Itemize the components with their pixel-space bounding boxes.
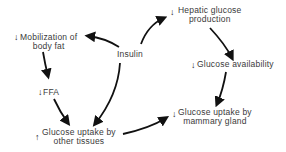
arrow-insulin-to-uptake-other bbox=[95, 63, 120, 124]
node-mobilization-line2: body fat bbox=[20, 42, 77, 51]
diagram-canvas: Insulin ↓ Mobilization of body fat ↓ Hep… bbox=[0, 0, 286, 152]
node-uptake-mammary-line2: mammary gland bbox=[178, 117, 252, 126]
decrease-arrow-icon: ↓ bbox=[38, 88, 43, 97]
arrow-insulin-to-hepatic bbox=[141, 18, 164, 44]
arrow-insulin-to-mobilization bbox=[88, 36, 119, 47]
node-glucose-availability: Glucose availability bbox=[197, 60, 274, 69]
arrow-hepatic-to-availability bbox=[210, 28, 232, 58]
node-hepatic-line2: production bbox=[178, 15, 241, 24]
decrease-arrow-icon: ↓ bbox=[14, 33, 19, 42]
node-uptake-other: Glucose uptake by other tissues bbox=[42, 128, 116, 146]
decrease-arrow-icon: ↓ bbox=[170, 8, 175, 17]
decrease-arrow-icon: ↓ bbox=[191, 61, 196, 70]
node-ffa-label: FFA bbox=[43, 87, 59, 97]
node-mobilization: Mobilization of body fat bbox=[20, 33, 77, 51]
node-insulin-label: Insulin bbox=[117, 49, 143, 59]
node-uptake-mammary: Glucose uptake by mammary gland bbox=[178, 108, 252, 126]
node-insulin: Insulin bbox=[117, 50, 143, 59]
decrease-arrow-icon: ↓ bbox=[172, 110, 177, 119]
arrow-uptake-other-to-mammary bbox=[123, 118, 166, 134]
arrow-ffa-to-uptake-other bbox=[54, 99, 68, 123]
arrow-availability-to-mammary bbox=[217, 72, 226, 104]
node-uptake-other-line2: other tissues bbox=[42, 137, 116, 146]
node-glucose-availability-label: Glucose availability bbox=[197, 59, 274, 69]
node-ffa: FFA bbox=[43, 88, 59, 97]
arrow-mobilization-to-ffa bbox=[43, 52, 48, 76]
node-hepatic: Hepatic glucose production bbox=[178, 6, 241, 24]
increase-arrow-icon: ↑ bbox=[35, 133, 40, 142]
